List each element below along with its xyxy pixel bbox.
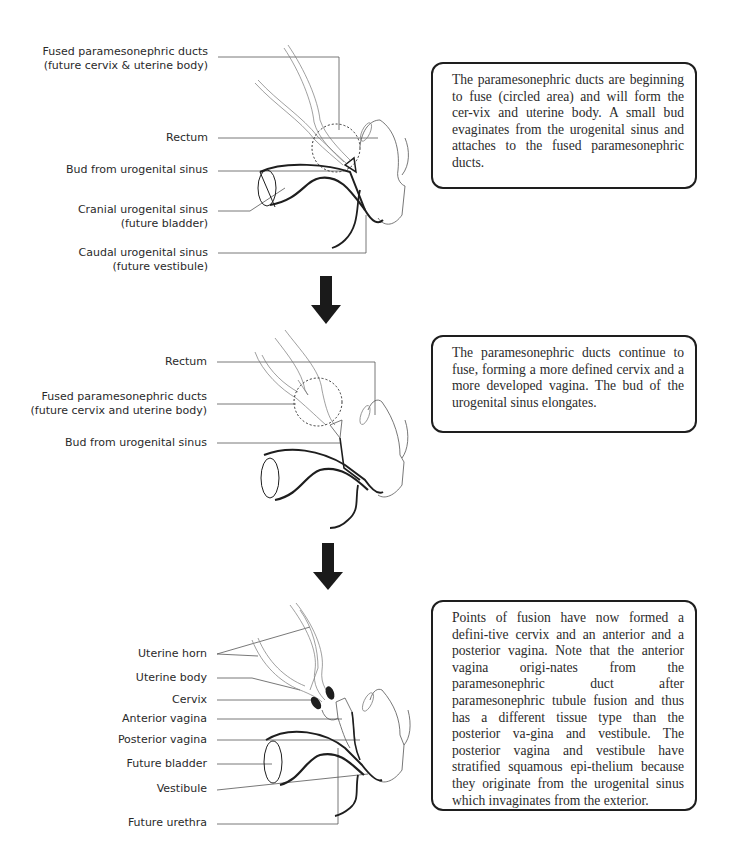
description-text: Points of fusion have now formed a defin… bbox=[452, 610, 684, 808]
stage-3-description: Points of fusion have now formed a defin… bbox=[431, 600, 697, 811]
